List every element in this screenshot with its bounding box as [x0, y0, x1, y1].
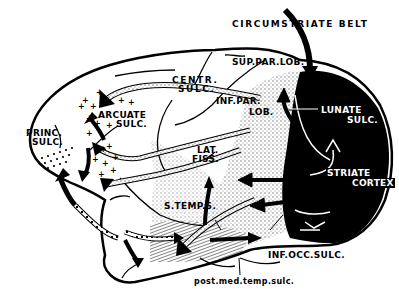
svg-text:+: +: [106, 142, 113, 151]
svg-text:+: +: [106, 121, 113, 130]
label-post-med-temp-sulc: post.med.temp.sulc.: [194, 277, 294, 287]
svg-text:+: +: [104, 178, 111, 187]
svg-text:+: +: [112, 153, 119, 162]
svg-text:+: +: [86, 114, 93, 123]
label-circumstriate-belt: CIRCUMSTRIATE BELT: [232, 19, 369, 29]
principal-dot-field: [41, 147, 73, 169]
label-princ-sulc-2: SULC.: [32, 137, 63, 147]
label-sup-par-lob: SUP.PAR.LOB.: [232, 57, 304, 67]
svg-text:+: +: [94, 119, 101, 128]
label-inf-occ-sulc: INF.OCC.SULC.: [268, 250, 345, 260]
label-inf-par-lob-2: LOB.: [249, 107, 274, 117]
svg-text:+: +: [78, 102, 85, 111]
brain-diagram: +++ +++ +++ +++ +++ +++ CIRCUMSTRIATE BE…: [0, 0, 399, 289]
svg-text:+: +: [118, 96, 125, 105]
label-lunate-sulc-1: LUNATE: [320, 105, 363, 115]
svg-text:+: +: [96, 88, 103, 97]
svg-text:+: +: [110, 166, 117, 175]
label-striate-cortex-2: CORTEX: [351, 178, 395, 188]
label-arcuate-sulc-2: SULC.: [116, 119, 147, 129]
svg-text:+: +: [128, 98, 135, 107]
svg-text:+: +: [92, 155, 99, 164]
label-lat-fiss-2: FISS.: [192, 154, 219, 164]
label-centr-sulc-2: SULC.: [178, 84, 216, 94]
label-lunate-sulc-2: SULC.: [346, 115, 379, 125]
svg-text:+: +: [86, 129, 93, 138]
label-s-temp-s: S.TEMP.S.: [164, 201, 216, 211]
svg-text:+: +: [102, 159, 109, 168]
svg-text:+: +: [90, 102, 97, 111]
label-inf-par-lob-1: INF.PAR.: [216, 96, 261, 106]
label-striate-cortex-1: STRIATE: [326, 168, 372, 178]
